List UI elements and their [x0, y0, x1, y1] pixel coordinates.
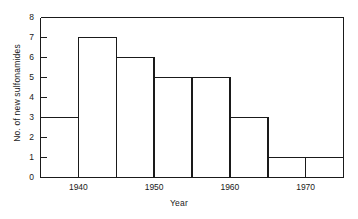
histogram-figure: No. of new sulfonamides 012345678 194019… — [0, 0, 358, 219]
x-tick-label: 1950 — [134, 182, 174, 192]
x-tick-label: 1960 — [210, 182, 250, 192]
x-tick-label: 1940 — [58, 182, 98, 192]
x-axis-tick-labels: 1940195019601970 — [0, 182, 358, 196]
x-axis-title: Year — [0, 198, 358, 208]
x-tick-label: 1970 — [286, 182, 326, 192]
